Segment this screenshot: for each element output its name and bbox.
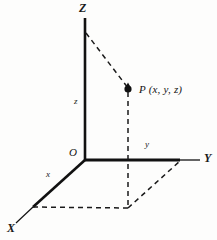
x-segment-label: x <box>46 170 50 179</box>
z-axis-label: Z <box>79 2 86 14</box>
origin-label: O <box>69 147 77 158</box>
coordinate-diagram: Z Y X O z y x P (x, y, z) <box>0 0 217 240</box>
z-segment-label: z <box>74 97 78 106</box>
point-p-label: P (x, y, z) <box>139 84 182 95</box>
dashed-construction-lines <box>33 33 180 208</box>
coordinate-axes-svg <box>0 0 217 240</box>
axis-lines <box>16 18 200 223</box>
y-axis-label: Y <box>204 152 211 164</box>
x-axis-label: X <box>7 222 15 234</box>
y-segment-label: y <box>145 140 149 149</box>
dashed-base-right-edge <box>128 161 180 208</box>
dashed-z-to-point <box>86 33 128 88</box>
dashed-base-front-edge <box>33 207 128 208</box>
x-axis-line-thin <box>16 207 33 223</box>
x-axis-line-thick <box>33 160 85 207</box>
